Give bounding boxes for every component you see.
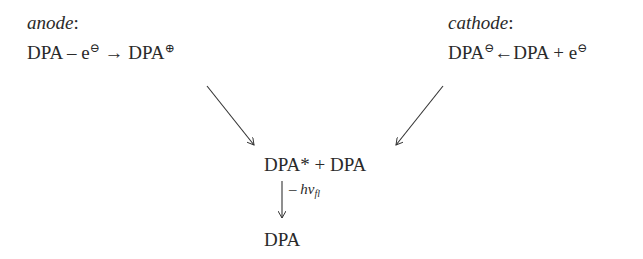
cathode-to-annihilation-arrow [396,86,443,145]
reaction-arrows [0,0,643,259]
anode-to-annihilation-arrow [207,86,254,145]
